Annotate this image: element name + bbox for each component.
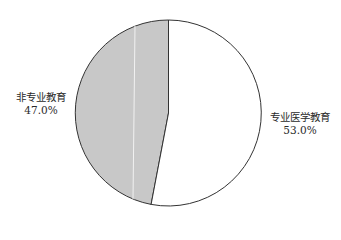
slice-label-value: 47.0% bbox=[10, 104, 72, 117]
slice-label-name: 专业医学教育 bbox=[262, 111, 338, 124]
pie-slice-non-professional bbox=[75, 20, 168, 204]
slice-label-value: 53.0% bbox=[262, 124, 338, 137]
slice-label-name: 非专业教育 bbox=[10, 91, 72, 104]
slice-label-non-professional: 非专业教育 47.0% bbox=[10, 91, 72, 117]
slice-label-professional-medical: 专业医学教育 53.0% bbox=[262, 111, 338, 137]
